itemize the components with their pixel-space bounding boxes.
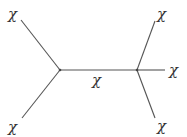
label-bottom-left: χ	[7, 118, 18, 136]
vertex-left	[59, 69, 62, 72]
external-line-bottom-right	[137, 70, 155, 118]
vertex-right	[136, 69, 139, 72]
label-propagator: χ	[91, 71, 102, 89]
external-line-bottom-left	[22, 70, 60, 118]
external-line-top-right	[137, 21, 155, 70]
label-bottom-right: χ	[156, 117, 167, 135]
label-top-right: χ	[156, 5, 167, 23]
label-middle-right: χ	[168, 61, 179, 79]
label-top-left: χ	[7, 5, 18, 23]
external-line-top-left	[21, 20, 60, 70]
feynman-diagram: χ χ χ χ χ χ	[0, 0, 187, 137]
